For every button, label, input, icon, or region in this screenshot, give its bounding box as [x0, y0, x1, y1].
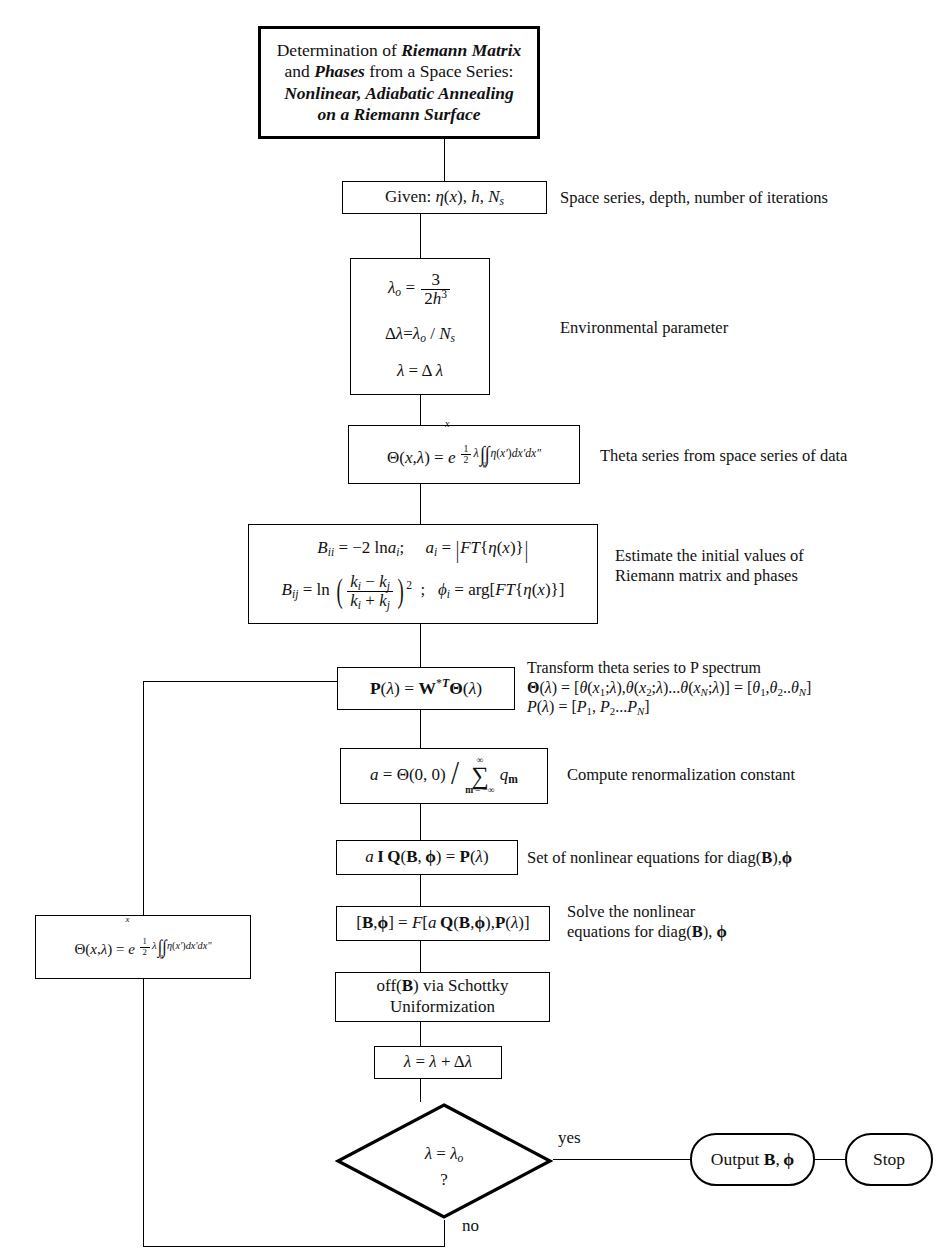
connector-nleq-solve — [420, 875, 421, 906]
caption-nonlinear-equations: Set of nonlinear equations for diag(B),ϕ — [527, 848, 792, 868]
node-schottky: off(B) via Schottky Uniformization — [335, 972, 550, 1022]
caption-p-spectrum-line-1: Transform theta series to P spectrum — [527, 658, 811, 678]
connector-given-env — [420, 214, 421, 258]
connector-riemann-pspectrum — [420, 624, 421, 667]
node-given-label: Given: η(x), h, Ns — [385, 187, 504, 208]
node-theta: Θ(x,λ) = e 12λ ∫∫0η(x′)dx′dx″ x — [348, 425, 580, 484]
node-environment-eq3: λ = Δ λ — [351, 361, 489, 382]
title-block: Determination of Riemann Matrix and Phas… — [258, 26, 540, 139]
caption-riemann-estimate: Estimate the initial values of Riemann m… — [615, 546, 804, 586]
node-renormalization-label: a = Θ(0, 0) / ∞∑m = −∞ qm — [370, 756, 518, 796]
node-lambda-update-label: λ = λ + Δλ — [404, 1052, 472, 1073]
caption-riemann-line-1: Estimate the initial values of — [615, 546, 804, 566]
caption-solve-line-1: Solve the nonlinear — [567, 902, 727, 922]
caption-riemann-line-2: Riemann matrix and phases — [615, 566, 804, 586]
node-environment-eq2: Δλ=λo / Ns — [351, 324, 489, 345]
caption-theta: Theta series from space series of data — [600, 446, 847, 466]
node-output-label: Output B, ϕ — [711, 1149, 795, 1170]
caption-given: Space series, depth, number of iteration… — [560, 188, 828, 208]
node-stop-label: Stop — [873, 1149, 905, 1170]
node-riemann-eq2: Bij = ln (ki − kjki + kj)2 ; ϕi = arg[FT… — [249, 573, 597, 610]
title-line-2: and Phases from a Space Series: — [277, 61, 522, 82]
caption-p-spectrum: Transform theta series to P spectrum Θ(λ… — [527, 658, 811, 717]
node-solve-label: [B,ϕ] = F[a Q(B,ϕ),P(λ)] — [356, 913, 529, 934]
caption-p-spectrum-line-3: P(λ) = [P1, P2...PN] — [527, 697, 811, 717]
connector-schottky-lambda — [420, 1022, 421, 1046]
connector-pspectrum-renorm — [420, 710, 421, 748]
connector-title-given — [444, 139, 445, 181]
flowchart-canvas: Determination of Riemann Matrix and Phas… — [0, 0, 943, 1258]
caption-renormalization: Compute renormalization constant — [567, 765, 795, 785]
node-nonlinear-equations: a I Q(B, ϕ) = P(λ) — [336, 840, 518, 875]
connector-lambda-decision — [420, 1079, 421, 1102]
edge-label-no: no — [462, 1216, 479, 1236]
node-output: Output B, ϕ — [690, 1133, 815, 1186]
connector-solve-schottky — [420, 941, 421, 972]
node-riemann-estimate: Bii = −2 lnai; ai = |FT{η(x)}| Bij = ln … — [248, 524, 598, 624]
connector-output-stop — [815, 1159, 845, 1160]
node-p-spectrum-label: P(λ) = W*TΘ(λ) — [370, 678, 482, 699]
node-nonlinear-equations-label: a I Q(B, ϕ) = P(λ) — [365, 847, 488, 868]
connector-loopback-top — [143, 681, 339, 682]
caption-solve: Solve the nonlinear equations for diag(B… — [567, 902, 727, 942]
connector-theta-riemann — [420, 484, 421, 524]
node-renormalization: a = Θ(0, 0) / ∞∑m = −∞ qm — [340, 748, 548, 804]
node-theta-label: Θ(x,λ) = e 12λ ∫∫0η(x′)dx′dx″ x — [387, 440, 541, 470]
connector-decision-output — [553, 1159, 690, 1160]
caption-environment: Environmental parameter — [560, 318, 728, 338]
edge-label-yes: yes — [558, 1128, 581, 1148]
caption-p-spectrum-line-2: Θ(λ) = [θ(x1;λ),θ(x2;λ)...θ(xN;λ)] = [θ1… — [527, 678, 811, 698]
node-lambda-update: λ = λ + Δλ — [374, 1046, 502, 1079]
node-given: Given: η(x), h, Ns — [342, 181, 547, 214]
node-environment-eq1: λo = 32h3 — [351, 271, 489, 308]
connector-loopback-bottom — [143, 1246, 445, 1247]
node-theta-loop-label: Θ(x,λ) = e 12λ ∫∫0η(x′)dx′dx″ x — [74, 934, 211, 960]
caption-solve-line-2: equations for diag(B), ϕ — [567, 922, 727, 942]
node-riemann-eq1: Bii = −2 lnai; ai = |FT{η(x)}| — [249, 538, 597, 559]
node-decision-line-1: λ = λo — [335, 1144, 553, 1164]
node-environment: λo = 32h3 Δλ=λo / Ns λ = Δ λ — [350, 258, 490, 395]
node-schottky-line-2: Uniformization — [336, 997, 549, 1018]
node-decision-line-2: ? — [335, 1170, 553, 1190]
node-decision: λ = λo ? — [335, 1102, 553, 1220]
title-line-4: on a Riemann Surface — [277, 104, 522, 125]
title-line-3: Nonlinear, Adiabatic Annealing — [277, 83, 522, 104]
node-p-spectrum: P(λ) = W*TΘ(λ) — [337, 667, 515, 710]
node-solve: [B,ϕ] = F[a Q(B,ϕ),P(λ)] — [336, 906, 550, 941]
connector-decision-no-vertical — [444, 1220, 445, 1247]
connector-renorm-nleq — [420, 804, 421, 840]
title-line-1: Determination of Riemann Matrix — [277, 40, 522, 61]
node-stop: Stop — [845, 1133, 933, 1186]
connector-env-theta — [420, 395, 421, 425]
node-schottky-line-1: off(B) via Schottky — [336, 976, 549, 997]
node-theta-loop: Θ(x,λ) = e 12λ ∫∫0η(x′)dx′dx″ x — [35, 915, 251, 979]
